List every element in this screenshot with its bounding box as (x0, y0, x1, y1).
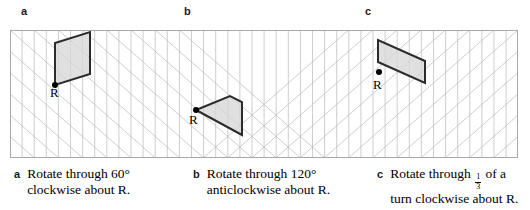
point-label-r-c: R (373, 78, 382, 91)
shape-a (55, 32, 90, 85)
caption-c-line1-before: Rotate through (390, 166, 474, 181)
caption-c: c Rotate through 13 of a turn clockwise … (377, 166, 530, 207)
caption-a-line1: Rotate through 60° (27, 166, 130, 181)
fraction-denominator: 3 (475, 183, 481, 191)
caption-letter-b: b (193, 166, 200, 182)
point-label-r-a: R (50, 86, 59, 99)
fraction-numerator: 1 (475, 173, 481, 181)
caption-letter-a: a (14, 166, 20, 182)
panel-letter-c: c (365, 6, 371, 17)
caption-a-line2: clockwise about R. (27, 182, 130, 197)
caption-c-line2: turn clockwise about R. (390, 191, 518, 206)
point-label-r-b: R (189, 113, 198, 126)
isometric-grid-area (10, 30, 518, 158)
fraction-one-third: 13 (475, 173, 481, 191)
caption-text-c: Rotate through 13 of a turn clockwise ab… (390, 166, 530, 207)
caption-b-line2: anticlockwise about R. (207, 182, 330, 197)
caption-text-b: Rotate through 120° anticlockwise about … (207, 166, 373, 198)
caption-a: a Rotate through 60° clockwise about R. (14, 166, 184, 198)
caption-b-line1: Rotate through 120° (207, 166, 317, 181)
shape-c (378, 40, 425, 83)
caption-c-line1-after: of a (482, 166, 506, 181)
panel-letter-a: a (21, 6, 27, 17)
shape-b (196, 96, 242, 135)
panel-letter-b: b (184, 6, 191, 17)
caption-text-a: Rotate through 60° clockwise about R. (27, 166, 184, 198)
shapes-layer (10, 30, 518, 158)
caption-letter-c: c (377, 166, 383, 182)
caption-b: b Rotate through 120° anticlockwise abou… (193, 166, 373, 198)
centre-of-rotation-dot (376, 69, 382, 75)
captions-row: a Rotate through 60° clockwise about R. … (0, 166, 530, 210)
